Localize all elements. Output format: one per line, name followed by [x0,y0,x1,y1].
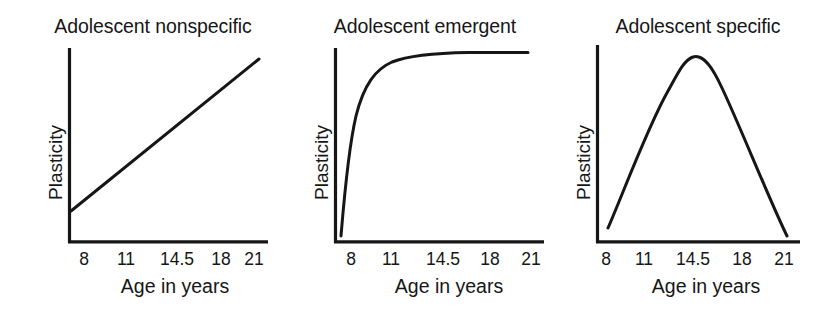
x-tick-label: 8 [79,247,89,271]
x-tick-label: 21 [521,247,540,271]
x-axis-tick-row: 8 11 14.5 18 21 [0,247,278,271]
panel-adolescent-specific: Adolescent specific Plasticity 8 11 14.5… [560,0,832,321]
x-axis-label: Age in years [0,274,314,298]
data-curve-saturating [341,53,528,237]
x-tick-label: 21 [244,247,263,271]
x-tick-label: 21 [774,247,793,271]
x-tick-label: 8 [346,247,356,271]
x-tick-label: 11 [382,247,400,271]
data-line-linear-increase [71,59,259,211]
figure-panels-container: Adolescent nonspecific Plasticity 8 11 1… [0,0,832,321]
panel-adolescent-nonspecific: Adolescent nonspecific Plasticity 8 11 1… [0,0,278,321]
x-tick-label: 18 [480,247,499,271]
y-axis-label: Plasticity [574,125,594,200]
x-axis-tick-row: 8 11 14.5 18 21 [278,247,560,271]
data-curve-inverted-u [608,57,787,236]
x-axis-label: Age in years [560,274,832,298]
x-axis-label: Age in years [278,274,590,298]
plot-adolescent-specific [560,0,832,321]
x-tick-label: 14.5 [426,247,460,271]
x-tick-label: 11 [635,247,653,271]
y-axis-label: Plasticity [312,125,332,200]
y-axis-label: Plasticity [46,125,66,200]
panel-adolescent-emergent: Adolescent emergent Plasticity 8 11 14.5… [278,0,560,321]
plot-adolescent-nonspecific [0,0,278,321]
x-tick-label: 18 [732,247,751,271]
x-tick-label: 18 [211,247,230,271]
x-tick-label: 11 [117,247,135,271]
x-tick-label: 14.5 [160,247,194,271]
x-tick-label: 14.5 [676,247,710,271]
x-tick-label: 8 [601,247,611,271]
x-axis-tick-row: 8 11 14.5 18 21 [560,247,832,271]
